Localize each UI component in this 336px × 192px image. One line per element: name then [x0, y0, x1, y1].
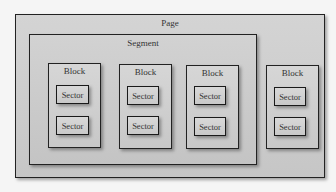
- diagram-canvas: Page Segment Block Sector Sector Block S…: [0, 0, 336, 192]
- block-label: Block: [187, 68, 238, 78]
- segment-label: Segment: [30, 38, 256, 48]
- sector-label: Sector: [199, 91, 221, 101]
- sector-label: Sector: [132, 91, 154, 101]
- block-label: Block: [49, 66, 100, 76]
- block-2: Block: [119, 64, 172, 149]
- block-4: Block: [266, 65, 319, 149]
- block-3: Block: [186, 65, 239, 149]
- block-2-sector-2: Sector: [127, 116, 159, 135]
- sector-label: Sector: [62, 90, 84, 100]
- block-3-sector-1: Sector: [194, 86, 226, 105]
- block-2-sector-1: Sector: [127, 86, 159, 105]
- block-label: Block: [267, 68, 318, 78]
- block-3-sector-2: Sector: [194, 117, 226, 136]
- sector-label: Sector: [279, 122, 301, 132]
- page-label: Page: [16, 18, 324, 28]
- block-4-sector-1: Sector: [274, 87, 306, 106]
- block-4-sector-2: Sector: [274, 117, 306, 136]
- block-1-sector-2: Sector: [56, 116, 89, 135]
- sector-label: Sector: [199, 122, 221, 132]
- sector-label: Sector: [132, 121, 154, 131]
- block-label: Block: [120, 67, 171, 77]
- block-1: Block: [48, 63, 101, 148]
- sector-label: Sector: [279, 92, 301, 102]
- sector-label: Sector: [62, 121, 84, 131]
- block-1-sector-1: Sector: [56, 85, 89, 104]
